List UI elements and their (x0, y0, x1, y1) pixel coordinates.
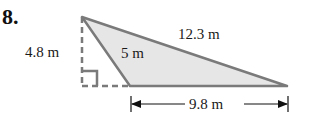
base-label: 9.8 m (189, 97, 223, 112)
triangle-figure (0, 0, 309, 135)
height-label: 4.8 m (25, 45, 59, 60)
long-side-label: 12.3 m (178, 27, 220, 42)
short-side-label: 5 m (121, 46, 144, 61)
right-angle-marker (82, 71, 97, 86)
